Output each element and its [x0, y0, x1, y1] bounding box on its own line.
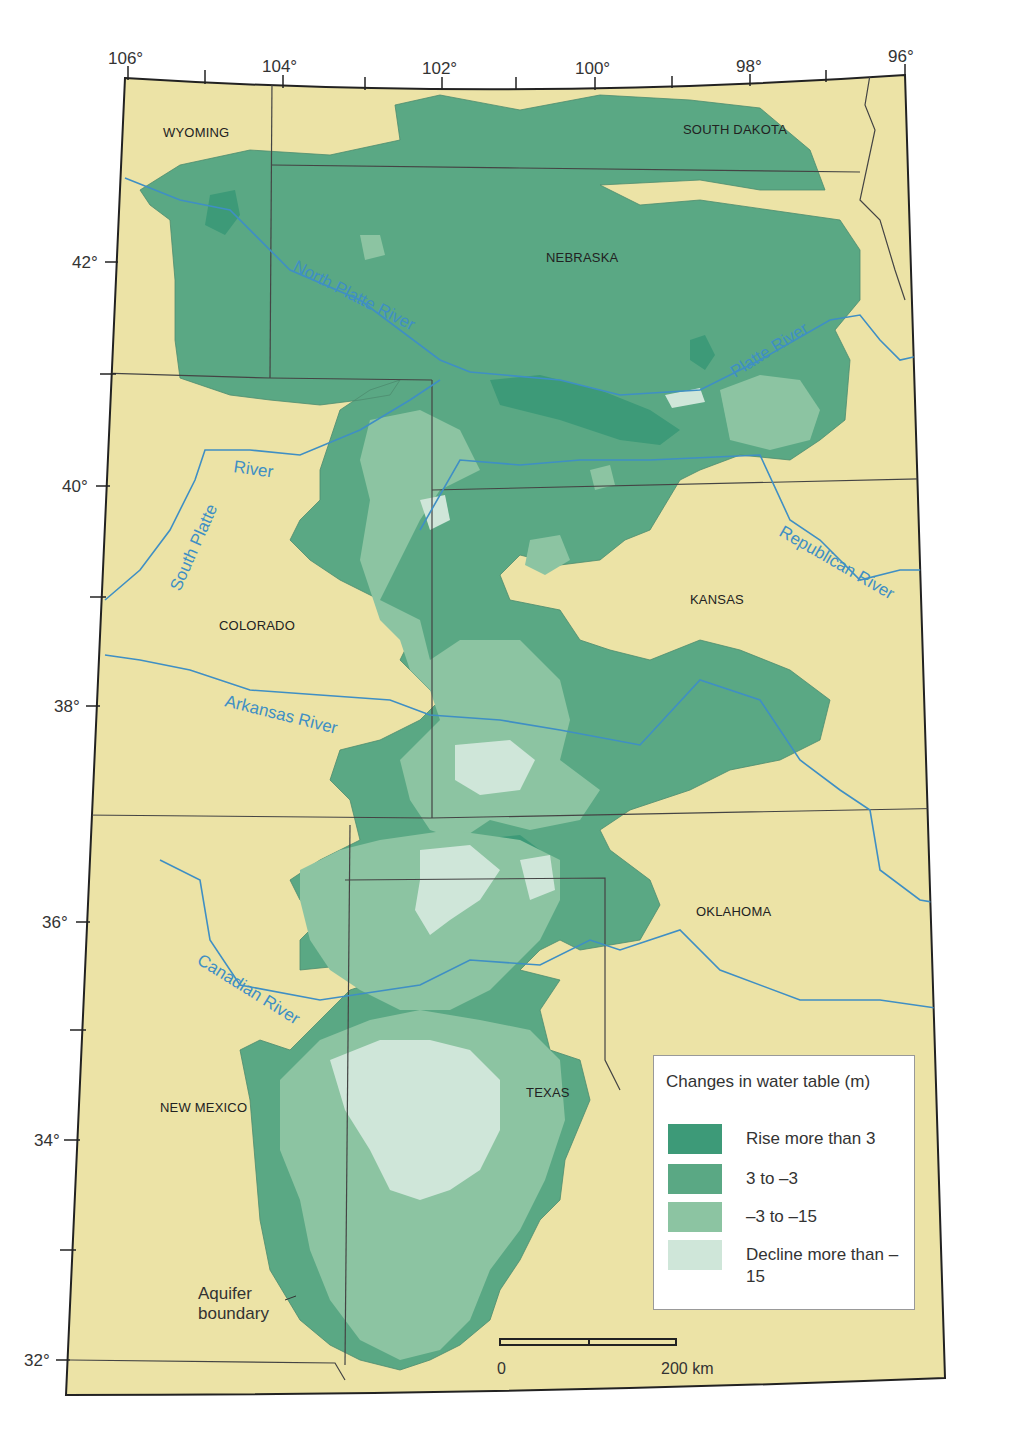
scale-bar: 0 200 km	[499, 1338, 679, 1388]
longitude-106: 106°	[108, 49, 143, 68]
swatch-severe-decline	[668, 1240, 722, 1270]
latitude-34: 34°	[34, 1131, 60, 1150]
aquifer-boundary-label: Aquifer boundary	[198, 1284, 269, 1324]
scale-bar-midtick	[588, 1338, 590, 1346]
state-label-texas: TEXAS	[526, 1085, 570, 1100]
legend-label: Decline more than –15	[746, 1244, 906, 1288]
swatch-moderate-decline	[668, 1202, 722, 1232]
state-label-oklahoma: OKLAHOMA	[696, 904, 771, 919]
aquifer-label-line1: Aquifer	[198, 1284, 269, 1304]
legend-label: 3 to –3	[746, 1168, 906, 1190]
swatch-rise	[668, 1124, 722, 1154]
legend: Changes in water table (m) Rise more tha…	[653, 1055, 915, 1310]
legend-label: –3 to –15	[746, 1206, 906, 1228]
longitude-102: 102°	[422, 59, 457, 78]
state-label-nebraska: NEBRASKA	[546, 250, 619, 265]
state-label-wyoming: WYOMING	[163, 125, 229, 140]
legend-item-rise: Rise more than 3	[668, 1124, 908, 1164]
legend-item-stable: 3 to –3	[668, 1164, 908, 1204]
aquifer-label-line2: boundary	[198, 1304, 269, 1324]
latitude-40: 40°	[62, 477, 88, 496]
scale-start-label: 0	[497, 1360, 506, 1378]
legend-title: Changes in water table (m)	[666, 1072, 870, 1092]
latitude-38: 38°	[54, 697, 80, 716]
longitude-104: 104°	[262, 57, 297, 76]
legend-item-severe-decline: Decline more than –15	[668, 1240, 908, 1280]
state-label-new-mexico: NEW MEXICO	[160, 1100, 247, 1115]
swatch-stable	[668, 1164, 722, 1194]
state-label-kansas: KANSAS	[690, 592, 744, 607]
legend-label: Rise more than 3	[746, 1128, 906, 1150]
longitude-100: 100°	[575, 59, 610, 78]
latitude-36: 36°	[42, 913, 68, 932]
longitude-96: 96°	[888, 47, 914, 66]
longitude-98: 98°	[736, 57, 762, 76]
state-label-south-dakota: SOUTH DAKOTA	[683, 122, 787, 137]
state-label-colorado: COLORADO	[219, 618, 295, 633]
latitude-42: 42°	[72, 253, 98, 272]
latitude-32: 32°	[24, 1351, 50, 1370]
scale-end-label: 200 km	[661, 1360, 713, 1378]
legend-item-moderate-decline: –3 to –15	[668, 1202, 908, 1242]
